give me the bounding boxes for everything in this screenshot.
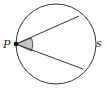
arc-label: s bbox=[96, 37, 102, 50]
lower-chord bbox=[16, 44, 83, 69]
upper-chord bbox=[16, 16, 79, 44]
circle-diagram: P s bbox=[0, 0, 106, 89]
point-label: P bbox=[2, 38, 11, 51]
point-p bbox=[14, 42, 19, 47]
